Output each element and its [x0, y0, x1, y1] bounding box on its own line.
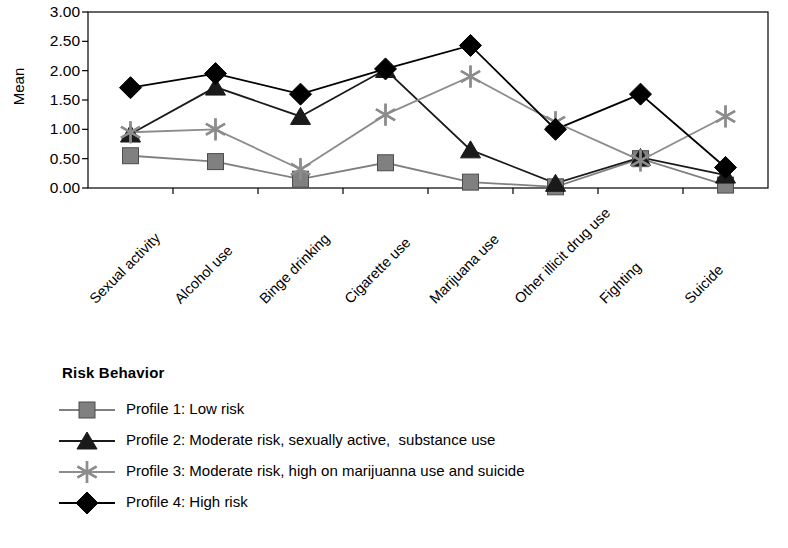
square-glyph	[378, 155, 394, 171]
diamond-glyph	[76, 492, 98, 514]
square-glyph	[463, 174, 479, 190]
x-axis-tick-label: Binge drinking	[257, 231, 332, 306]
square-marker	[463, 174, 479, 190]
x-axis-tick-label: Sexual activity	[87, 230, 163, 306]
plot-area	[0, 0, 788, 200]
square-marker	[79, 402, 95, 418]
legend-item: Profile 1: Low risk	[58, 393, 758, 424]
x-axis-tick-label: Other illicit drug use	[512, 205, 613, 306]
legend-key-glyph	[58, 429, 116, 453]
x-axis-tick-label: Suicide	[682, 262, 726, 306]
legend-item-label: Profile 2: Moderate risk, sexually activ…	[126, 432, 495, 447]
x-axis-tick-label: Cigarette use	[342, 235, 413, 306]
x-axis-tick-label: Alcohol use	[172, 243, 235, 306]
square-marker	[378, 155, 394, 171]
legend-item: Profile 4: High risk	[58, 486, 758, 517]
square-marker	[58, 398, 116, 420]
x-axis-tick-label: Marijuana use	[427, 232, 502, 307]
x-axis-tick-label: Fighting	[597, 260, 644, 307]
legend-key-glyph	[58, 491, 116, 515]
legend-item-label: Profile 4: High risk	[126, 494, 248, 509]
legend-item: Profile 3: Moderate risk, high on mariju…	[58, 455, 758, 486]
square-marker	[208, 154, 224, 170]
square-glyph	[208, 154, 224, 170]
legend-items: Profile 1: Low riskProfile 2: Moderate r…	[58, 393, 758, 517]
legend: Risk Behavior Profile 1: Low riskProfile…	[58, 364, 758, 517]
asterisk-marker	[58, 460, 116, 482]
diamond-marker	[58, 491, 116, 513]
diamond-marker	[76, 492, 98, 514]
legend-item-label: Profile 1: Low risk	[126, 401, 244, 416]
legend-item: Profile 2: Moderate risk, sexually activ…	[58, 424, 758, 455]
chart-figure: Mean 3.002.502.001.501.000.500.00 Sexual…	[0, 0, 788, 548]
legend-item-label: Profile 3: Moderate risk, high on mariju…	[126, 463, 525, 478]
triangle-marker	[58, 429, 116, 451]
plot-frame	[88, 12, 768, 188]
square-glyph	[79, 402, 95, 418]
legend-title: Risk Behavior	[62, 364, 758, 381]
square-marker	[123, 148, 139, 164]
legend-key-glyph	[58, 398, 116, 422]
square-glyph	[123, 148, 139, 164]
legend-key-glyph	[58, 460, 116, 484]
